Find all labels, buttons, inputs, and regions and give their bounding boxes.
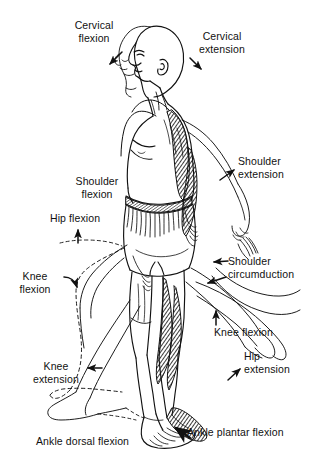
arrow-cervical-flexion — [110, 52, 122, 64]
label-shoulder-extension: Shoulder extension — [238, 155, 304, 180]
arrow-shoulder-circumduction-a — [214, 261, 228, 262]
arrow-cervical-extension — [190, 58, 201, 69]
label-ankle-plantar-flexion: Ankle plantar flexion — [187, 426, 302, 439]
label-knee-flexion-right: Knee flexion — [214, 326, 292, 339]
label-knee-extension: Knee extension — [24, 360, 88, 385]
anatomical-figure-illustration — [0, 0, 310, 473]
label-shoulder-circumduction: Shoulder circumduction — [228, 255, 310, 280]
label-cervical-flexion: Cervical flexion — [60, 19, 128, 44]
arrow-hip-extension — [228, 369, 240, 380]
arrow-knee-flexion-left — [64, 277, 77, 287]
range-of-motion-figure: Cervical flexion Cervical extension Shou… — [0, 0, 310, 473]
label-hip-flexion: Hip flexion — [50, 212, 120, 225]
label-cervical-extension: Cervical extension — [186, 30, 258, 55]
label-shoulder-flexion: Shoulder flexion — [68, 175, 126, 200]
label-ankle-dorsal-flexion: Ankle dorsal flexion — [36, 435, 146, 448]
label-knee-flexion-left: Knee flexion — [12, 270, 58, 295]
label-hip-extension: Hip extension — [244, 350, 306, 375]
arrow-shoulder-extension — [220, 170, 234, 180]
